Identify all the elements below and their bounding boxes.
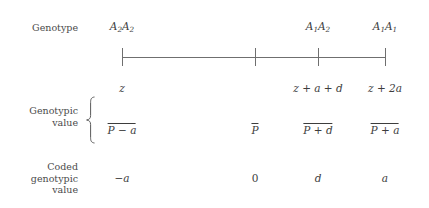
value-pbar-a1a1: P + a (371, 124, 400, 136)
genotype-a1a2-allele1: A (306, 20, 314, 32)
scale-axis-line (122, 57, 385, 58)
genotypic-value-scale-figure: Genotype A2A2 A1A2 A1A1 z z + a + d z + … (0, 0, 429, 208)
axis-tick-midpoint (255, 48, 256, 66)
genotype-a2a2-sub2: 2 (130, 25, 135, 34)
axis-tick-a1a1 (385, 48, 386, 66)
value-z-a1a1: z + 2a (368, 82, 402, 94)
genotypic-value-label-line2: value (29, 117, 78, 129)
value-pbar-a2a2: P − a (108, 124, 137, 136)
genotypic-value-row-label: Genotypic value (29, 105, 78, 128)
value-pbar-a2a2-text: P − a (108, 124, 137, 136)
value-pbar-midpoint: P (251, 124, 258, 136)
genotype-a2a2-allele1: A (110, 20, 118, 32)
value-coded-a1a2: d (315, 172, 322, 184)
value-coded-midpoint: 0 (252, 172, 259, 184)
value-z-a2a2-text: z (119, 82, 125, 94)
value-z-a1a2-text: z + a + d (293, 82, 342, 94)
value-coded-a2a2-text: −a (114, 172, 129, 184)
coded-label-line1: Coded (31, 161, 78, 173)
coded-label-line3: value (31, 184, 78, 196)
value-pbar-a1a2: P + d (303, 124, 332, 136)
genotype-row-label: Genotype (32, 22, 78, 34)
value-pbar-midpoint-text: P (251, 124, 258, 136)
genotype-a1a1: A1A1 (373, 20, 397, 34)
value-coded-a2a2: −a (114, 172, 129, 184)
value-pbar-a1a1-text: P + a (371, 124, 400, 136)
genotypic-value-brace (83, 96, 96, 148)
genotype-a1a1-sub2: 1 (393, 25, 398, 34)
value-z-a2a2: z (119, 82, 125, 94)
axis-tick-a2a2 (122, 48, 123, 66)
genotype-a1a2: A1A2 (306, 20, 330, 34)
brace-glyph (83, 96, 96, 144)
value-coded-a1a1: a (382, 172, 388, 184)
value-pbar-a1a2-text: P + d (303, 124, 332, 136)
coded-genotypic-value-row-label: Coded genotypic value (31, 161, 78, 196)
value-z-a1a2: z + a + d (293, 82, 342, 94)
genotype-a1a1-allele2: A (385, 20, 393, 32)
genotypic-value-label-line1: Genotypic (29, 105, 78, 117)
value-coded-a1a1-text: a (382, 172, 388, 184)
genotype-a1a1-allele1: A (373, 20, 381, 32)
genotype-a1a2-sub2: 2 (326, 25, 331, 34)
genotype-a1a2-allele2: A (318, 20, 326, 32)
value-coded-midpoint-text: 0 (252, 172, 259, 184)
genotype-a2a2-allele2: A (122, 20, 130, 32)
value-z-a1a1-text: z + 2a (368, 82, 402, 94)
axis-tick-a1a2 (318, 48, 319, 66)
coded-label-line2: genotypic (31, 173, 78, 185)
value-coded-a1a2-text: d (315, 172, 322, 184)
genotype-a2a2: A2A2 (110, 20, 134, 34)
